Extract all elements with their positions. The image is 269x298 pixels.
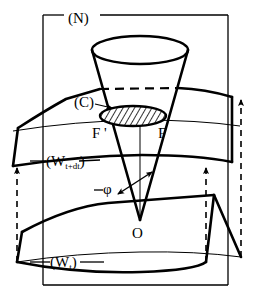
label-Wt-open: (W bbox=[50, 254, 69, 270]
leader-line-C bbox=[95, 104, 112, 108]
diagram-svg bbox=[0, 0, 269, 298]
label-curve-C: (C) bbox=[74, 95, 94, 110]
label-Wt-subscript: t bbox=[69, 262, 72, 272]
label-surface-Wt: (Wt) bbox=[50, 255, 77, 270]
cone-top-rim bbox=[92, 36, 188, 64]
label-angle-phi: φ bbox=[103, 182, 112, 197]
label-surface-Wtdt: (Wt+dt) bbox=[46, 154, 85, 169]
Wt-near-edge bbox=[17, 262, 206, 272]
label-Wtdt-open: (W bbox=[46, 153, 65, 169]
Wtdt-left-edge bbox=[13, 128, 18, 166]
figure-canvas: (N) (C) F ' F (Wt+dt) φ O (Wt) bbox=[0, 0, 269, 298]
Wtdt-far-edge-right bbox=[178, 88, 232, 97]
Wt-far-edge bbox=[22, 195, 214, 232]
label-point-F-prime: F ' bbox=[92, 126, 107, 141]
angle-phi-indicator bbox=[118, 172, 152, 194]
label-Wtdt-subscript: t+dt bbox=[65, 161, 80, 171]
label-Wtdt-close: ) bbox=[80, 153, 85, 169]
label-Wt-close: ) bbox=[72, 254, 77, 270]
label-apex-O: O bbox=[132, 226, 143, 241]
leader-C-line bbox=[95, 104, 112, 108]
label-point-F: F bbox=[158, 126, 166, 141]
Wt-right-edge bbox=[206, 195, 214, 262]
phi-double-arrow bbox=[118, 172, 152, 194]
Wtdt-far-edge-dashed bbox=[100, 88, 178, 89]
label-frame-N: (N) bbox=[68, 11, 89, 26]
